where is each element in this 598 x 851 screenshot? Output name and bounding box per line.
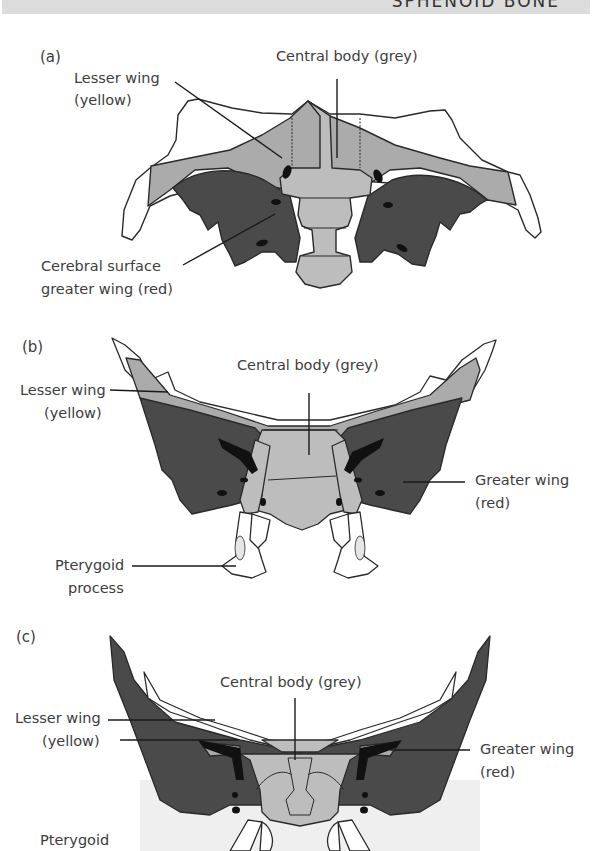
panel-c-greater-wing-label-line1: Greater wing [480,739,574,759]
panel-a-central-body-label: Central body (grey) [276,46,418,66]
panel-b-greater-wing-label-line2: (red) [475,493,510,513]
panel-c-lesser-wing-label-line1: Lesser wing [15,708,101,728]
panel-b-pterygoid-label-line2: process [68,578,124,598]
panel-c-lesser-wing-label-line2: (yellow) [42,731,100,751]
panel-c-letter: (c) [16,628,36,646]
panel-a-lesser-wing-label-line1: Lesser wing [74,68,160,88]
panel-a-greater-wing-right [355,175,487,266]
panel-b-greater-wing-label-line1: Greater wing [475,470,569,490]
panel-c-greater-wing-label-line2: (red) [480,762,515,782]
panel-a-cerebral-surface-label-line2: greater wing (red) [41,279,173,299]
panel-b-pterygoid-label-line1: Pterygoid [55,555,124,575]
panel-c-pterygoid-label-line1: Pterygoid [40,830,109,850]
panel-a-lesser-wing-label-line2: (yellow) [74,90,132,110]
panel-b-letter: (b) [22,338,43,356]
panel-a-cerebral-surface-label-line1: Cerebral surface [41,256,161,276]
panel-b-lesser-wing-label-line2: (yellow) [44,403,102,423]
panel-c-central-body-label: Central body (grey) [220,672,362,692]
panel-a-letter: (a) [40,48,61,66]
panel-b-lesser-wing-label-line1: Lesser wing [20,380,106,400]
panel-a-drawing [122,99,541,288]
panel-c-drawing [110,636,490,851]
panel-b-central-body-label: Central body (grey) [237,355,379,375]
